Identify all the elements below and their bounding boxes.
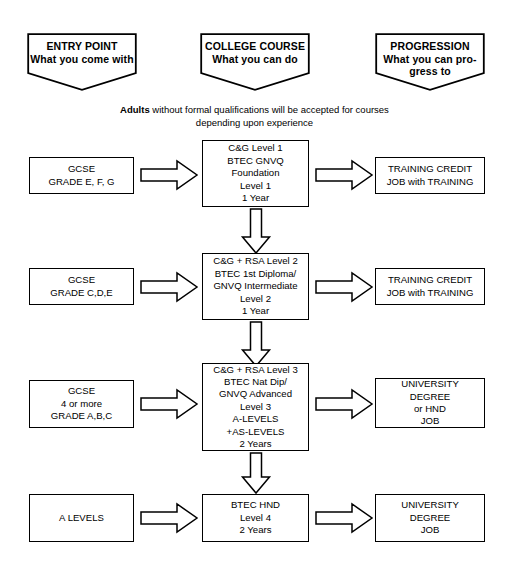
column-header-progression: PROGRESSION What you can pro-gress to bbox=[375, 33, 485, 91]
arrow-right-row-4-entry-to-course bbox=[140, 503, 198, 533]
flowchart-canvas: ENTRY POINT What you come with COLLEGE C… bbox=[0, 0, 509, 580]
arrow-right-row-2-course-to-progression bbox=[315, 272, 373, 302]
column-header-entry-point-text: ENTRY POINT What you come with bbox=[27, 33, 137, 65]
course-box-row-2-text: C&G + RSA Level 2BTEC 1st Diploma/GNVQ I… bbox=[203, 255, 308, 317]
entry-box-row-4-text: A LEVELS bbox=[30, 512, 133, 524]
entry-box-row-3-text: GCSE4 or moreGRADE A,B,C bbox=[30, 385, 133, 422]
course-box-row-2: C&G + RSA Level 2BTEC 1st Diploma/GNVQ I… bbox=[202, 253, 309, 320]
progression-box-row-3: UNIVERSITYDEGREEor HNDJOB bbox=[375, 378, 485, 428]
course-box-row-3: C&G + RSA Level 3BTEC Nat Dip/GNVQ Advan… bbox=[202, 363, 309, 451]
column-header-progression-text: PROGRESSION What you can pro-gress to bbox=[375, 33, 485, 78]
arrow-right-row-1-entry-to-course bbox=[140, 160, 198, 190]
column-header-progression-heading: PROGRESSION bbox=[375, 40, 485, 53]
progression-box-row-2: TRAINING CREDITJOB with TRAINING bbox=[375, 268, 485, 305]
arrow-right-row-1-course-to-progression bbox=[315, 160, 373, 190]
progression-box-row-2-text: TRAINING CREDITJOB with TRAINING bbox=[376, 274, 484, 299]
adults-note-bold: Adults bbox=[120, 104, 150, 115]
column-header-college-course-text: COLLEGE COURSE What you can do bbox=[200, 33, 310, 65]
course-box-row-1: C&G Level 1BTEC GNVQFoundationLevel 11 Y… bbox=[202, 140, 309, 207]
arrow-down-course-3-to-course-4 bbox=[241, 452, 271, 494]
progression-box-row-1-text: TRAINING CREDITJOB with TRAINING bbox=[376, 163, 484, 188]
arrow-down-course-2-to-course-3 bbox=[241, 321, 271, 367]
column-header-college-course: COLLEGE COURSE What you can do bbox=[200, 33, 310, 91]
column-header-entry-point: ENTRY POINT What you come with bbox=[27, 33, 137, 91]
adults-note-rest: without formal qualifications will be ac… bbox=[150, 104, 389, 115]
arrow-down-course-1-to-course-2 bbox=[241, 208, 271, 254]
entry-box-row-4: A LEVELS bbox=[29, 494, 134, 542]
entry-box-row-3: GCSE4 or moreGRADE A,B,C bbox=[29, 380, 134, 428]
column-header-entry-point-sub: What you come with bbox=[27, 53, 137, 66]
progression-box-row-4-text: UNIVERSITYDEGREEJOB bbox=[376, 499, 484, 536]
course-box-row-3-text: C&G + RSA Level 3BTEC Nat Dip/GNVQ Advan… bbox=[203, 364, 308, 451]
column-header-progression-sub: What you can pro-gress to bbox=[375, 53, 485, 78]
progression-box-row-4: UNIVERSITYDEGREEJOB bbox=[375, 494, 485, 542]
entry-box-row-2-text: GCSEGRADE C,D,E bbox=[30, 274, 133, 299]
column-header-college-course-sub: What you can do bbox=[200, 53, 310, 66]
course-box-row-4: BTEC HNDLevel 42 Years bbox=[202, 494, 309, 542]
column-header-college-course-heading: COLLEGE COURSE bbox=[200, 40, 310, 53]
course-box-row-4-text: BTEC HNDLevel 42 Years bbox=[203, 499, 308, 536]
adults-note: Adults without formal qualifications wil… bbox=[0, 103, 509, 129]
course-box-row-1-text: C&G Level 1BTEC GNVQFoundationLevel 11 Y… bbox=[203, 142, 308, 204]
entry-box-row-1: GCSEGRADE E, F, G bbox=[29, 157, 134, 194]
entry-box-row-2: GCSEGRADE C,D,E bbox=[29, 268, 134, 305]
arrow-right-row-3-course-to-progression bbox=[315, 389, 373, 419]
adults-note-line2: depending upon experience bbox=[0, 116, 509, 129]
progression-box-row-3-text: UNIVERSITYDEGREEor HNDJOB bbox=[376, 378, 484, 428]
entry-box-row-1-text: GCSEGRADE E, F, G bbox=[30, 163, 133, 188]
progression-box-row-1: TRAINING CREDITJOB with TRAINING bbox=[375, 157, 485, 194]
arrow-right-row-3-entry-to-course bbox=[140, 389, 198, 419]
arrow-right-row-2-entry-to-course bbox=[140, 272, 198, 302]
adults-note-line1: Adults without formal qualifications wil… bbox=[0, 103, 509, 116]
arrow-right-row-4-course-to-progression bbox=[315, 503, 373, 533]
column-header-entry-point-heading: ENTRY POINT bbox=[27, 40, 137, 53]
